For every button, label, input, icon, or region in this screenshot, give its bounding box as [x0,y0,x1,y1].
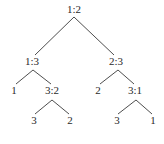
tree-edge [100,70,118,84]
tree-node-label: 1 [150,114,156,126]
tree-diagram: 1:21:32:313:223:13231 [0,0,164,144]
tree-node-label: 3:2 [45,84,59,96]
tree-node-label: 1:2 [67,3,81,15]
tree-nodes: 1:21:32:313:223:13231 [11,3,156,126]
tree-node-label: 3 [114,114,120,126]
tree-edge [74,17,114,55]
tree-edge [35,17,74,55]
tree-node-label: 2 [67,114,73,126]
tree-edge [118,70,134,84]
tree-edge [35,100,52,114]
tree-node-label: 2:3 [109,55,124,67]
tree-node-label: 2 [95,84,101,96]
tree-edge [33,70,51,84]
tree-node-label: 3:1 [128,84,142,96]
tree-node-label: 1 [11,84,17,96]
tree-edge [136,100,152,114]
tree-edge [52,100,69,114]
tree-node-label: 1:3 [25,55,40,67]
tree-edge [16,70,33,84]
tree-node-label: 3 [31,114,37,126]
tree-edge [118,100,136,114]
